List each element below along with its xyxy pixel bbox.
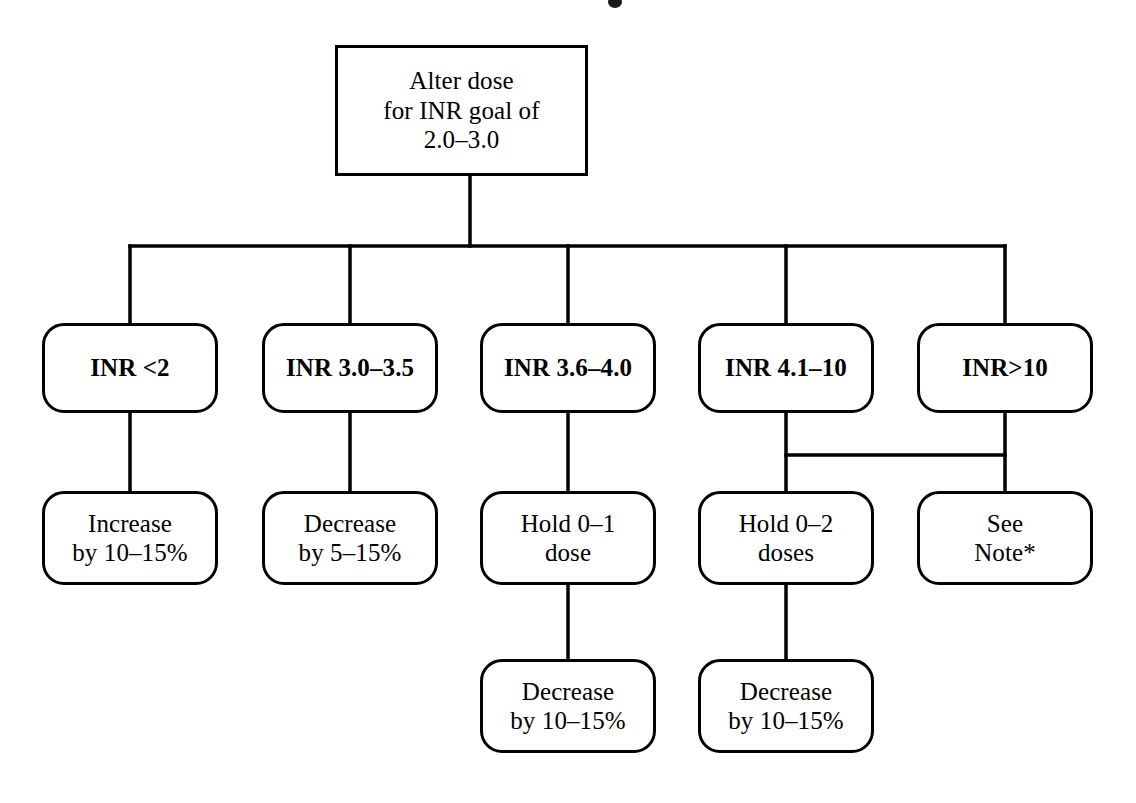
node-condition-inr-3-6-4-0[interactable]: INR 3.6–4.0 (480, 323, 656, 413)
node-condition-inr-lt-2[interactable]: INR <2 (42, 323, 218, 413)
node-condition-label: INR 3.0–3.5 (280, 353, 420, 383)
node-condition-label: INR 3.6–4.0 (498, 353, 638, 383)
node-action-label: Hold 0–2 doses (733, 509, 840, 568)
node-action-label: Decrease by 5–15% (293, 509, 408, 568)
node-action-increase-10-15[interactable]: Increase by 10–15% (42, 491, 218, 585)
flowchart-canvas: Alter dose for INR goal of 2.0–3.0 INR <… (0, 0, 1136, 803)
node-root-label: Alter dose for INR goal of 2.0–3.0 (377, 66, 545, 155)
node-action-see-note[interactable]: See Note* (917, 491, 1093, 585)
node-condition-label: INR>10 (956, 353, 1054, 383)
node-action-label: Hold 0–1 dose (515, 509, 622, 568)
node-condition-label: INR 4.1–10 (719, 353, 853, 383)
node-action-decrease-10-15-col3[interactable]: Decrease by 10–15% (480, 659, 656, 753)
node-action-label: Decrease by 10–15% (722, 677, 849, 736)
node-action-label: Increase by 10–15% (66, 509, 193, 568)
node-action-hold-0-2-doses[interactable]: Hold 0–2 doses (698, 491, 874, 585)
node-root[interactable]: Alter dose for INR goal of 2.0–3.0 (335, 45, 588, 176)
node-action-label: Decrease by 10–15% (504, 677, 631, 736)
node-action-hold-0-1-dose[interactable]: Hold 0–1 dose (480, 491, 656, 585)
node-condition-inr-3-0-3-5[interactable]: INR 3.0–3.5 (262, 323, 438, 413)
node-action-decrease-5-15[interactable]: Decrease by 5–15% (262, 491, 438, 585)
node-action-label: See Note* (968, 509, 1042, 568)
scan-artifact-speck (608, 0, 622, 8)
node-condition-inr-4-1-10[interactable]: INR 4.1–10 (698, 323, 874, 413)
node-action-decrease-10-15-col4[interactable]: Decrease by 10–15% (698, 659, 874, 753)
node-condition-label: INR <2 (84, 353, 175, 383)
node-condition-inr-gt-10[interactable]: INR>10 (917, 323, 1093, 413)
